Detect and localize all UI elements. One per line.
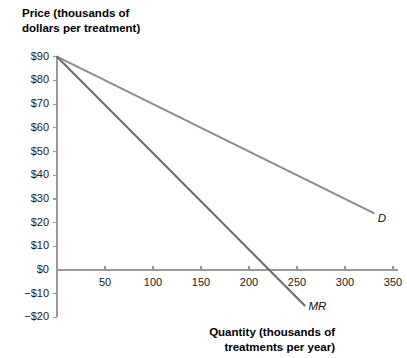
y-tick-label: $10 (7, 239, 49, 251)
y-tick-label: $0 (7, 263, 49, 275)
curve-label-mr: MR (309, 300, 327, 312)
y-tick-label: $60 (7, 121, 49, 133)
y-tick-label: $30 (7, 192, 49, 204)
y-tick-label: $70 (7, 97, 49, 109)
y-tick-label: −$10 (7, 287, 49, 299)
y-tick-label: $80 (7, 73, 49, 85)
series-line-mr (57, 57, 305, 306)
y-tick-label: $20 (7, 216, 49, 228)
y-tick-label: −$20 (7, 310, 49, 322)
x-tick-label: 150 (181, 276, 221, 288)
x-tick-label: 300 (325, 276, 365, 288)
x-tick-label: 50 (85, 276, 125, 288)
x-tick-label: 250 (277, 276, 317, 288)
series-line-d (57, 57, 374, 213)
y-tick-label: $90 (7, 50, 49, 62)
x-tick-label: 350 (373, 276, 407, 288)
curve-label-d: D (378, 212, 386, 224)
x-tick-label: 100 (133, 276, 173, 288)
y-tick-label: $40 (7, 168, 49, 180)
x-axis-title: Quantity (thousands of treatments per ye… (150, 325, 335, 355)
y-tick-label: $50 (7, 145, 49, 157)
x-tick-label: 200 (229, 276, 269, 288)
